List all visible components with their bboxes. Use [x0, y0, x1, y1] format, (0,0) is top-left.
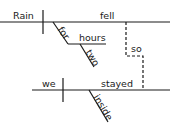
word-stayed: stayed: [101, 79, 133, 89]
word-we: we: [42, 79, 56, 89]
word-hours: hours: [79, 33, 106, 43]
word-so: so: [131, 44, 142, 54]
word-fell: fell: [100, 11, 114, 21]
word-rain: Rain: [13, 11, 34, 21]
